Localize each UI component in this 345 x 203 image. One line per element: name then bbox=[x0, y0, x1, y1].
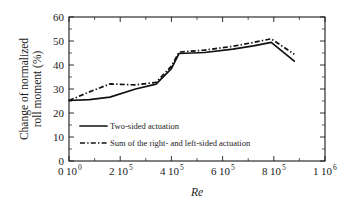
x-axis-top-ticks bbox=[69, 17, 325, 22]
svg-text:5: 5 bbox=[180, 163, 184, 172]
y-tick-label: 60 bbox=[53, 11, 65, 23]
y-tick-label: 30 bbox=[53, 83, 65, 95]
svg-text:10: 10 bbox=[321, 165, 333, 177]
y-axis-title-line1: Change of normalized bbox=[18, 38, 31, 140]
svg-text:6: 6 bbox=[333, 163, 337, 172]
svg-text:10: 10 bbox=[270, 165, 282, 177]
svg-text:10: 10 bbox=[117, 165, 129, 177]
svg-text:1: 1 bbox=[313, 165, 319, 177]
y-tick-label: 10 bbox=[53, 131, 65, 143]
svg-text:5: 5 bbox=[282, 163, 286, 172]
line-chart: 0 10 20 30 40 50 60 0 10 0 2 10 5 4 10 5 bbox=[0, 0, 345, 203]
x-tick-labels: 0 10 0 2 10 5 4 10 5 6 10 5 8 10 bbox=[58, 163, 337, 177]
legend-label-two-sided-actuation: Two-sided actuation bbox=[110, 121, 180, 131]
y-axis-right-ticks bbox=[320, 17, 325, 161]
legend: Two-sided actuation Sum of the right- an… bbox=[80, 121, 251, 148]
y-tick-labels: 0 10 20 30 40 50 60 bbox=[53, 11, 65, 167]
series-sum-right-left-sided-actuation bbox=[69, 39, 294, 101]
svg-text:10: 10 bbox=[219, 165, 231, 177]
x-tick-label: 1 10 6 bbox=[313, 163, 337, 177]
svg-text:2: 2 bbox=[109, 165, 115, 177]
x-tick-label: 8 10 5 bbox=[262, 163, 286, 177]
y-axis-major-ticks bbox=[69, 17, 74, 161]
svg-text:6: 6 bbox=[211, 165, 217, 177]
svg-text:5: 5 bbox=[129, 163, 133, 172]
y-axis-title-line2: roll moment (%) bbox=[31, 51, 44, 128]
legend-label-sum-right-left-sided-actuation: Sum of the right- and left-sided actuati… bbox=[110, 138, 251, 148]
figure-container: 0 10 20 30 40 50 60 0 10 0 2 10 5 4 10 5 bbox=[0, 0, 345, 203]
y-tick-label: 20 bbox=[53, 107, 65, 119]
svg-text:8: 8 bbox=[262, 165, 268, 177]
y-tick-label: 50 bbox=[53, 35, 65, 47]
x-tick-label: 0 10 0 bbox=[58, 163, 82, 177]
svg-text:5: 5 bbox=[231, 163, 235, 172]
x-axis-title: Re bbox=[190, 186, 203, 198]
svg-text:10: 10 bbox=[168, 165, 180, 177]
svg-text:4: 4 bbox=[160, 165, 166, 177]
svg-text:10: 10 bbox=[66, 165, 78, 177]
svg-text:0: 0 bbox=[58, 165, 64, 177]
svg-text:0: 0 bbox=[78, 163, 82, 172]
x-tick-label: 4 10 5 bbox=[160, 163, 184, 177]
x-tick-label: 6 10 5 bbox=[211, 163, 235, 177]
y-tick-label: 40 bbox=[53, 59, 65, 71]
x-tick-label: 2 10 5 bbox=[109, 163, 133, 177]
